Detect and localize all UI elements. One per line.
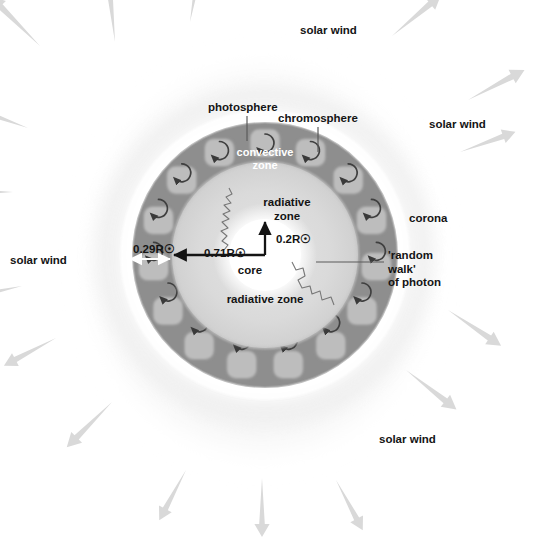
chromosphere-label: chromosphere [278,112,358,126]
radiative-zone-label-lower: radiative zone [227,293,304,307]
convection-cell [361,253,391,281]
core-radius-label: 0.2R☉ [276,233,311,247]
corona-label: corona [409,212,447,226]
solar-wind-arrow [61,397,117,453]
diagram-canvas [0,0,539,547]
convection-cell [296,139,326,167]
solar-wind-arrow [1,332,60,372]
solar-wind-label-right: solar wind [429,118,486,132]
convective-zone-line-2: zone [237,159,294,172]
radiative-zone-label-upper: radiative zone [263,196,310,223]
convective-zone-line-1: convective [237,146,294,159]
radiative-zone-line-2: zone [263,210,310,224]
convective-thickness-label: 0.29R☉ [133,243,175,257]
solar-wind-arrow [0,101,30,135]
solar-wind-label-left: solar wind [10,254,67,268]
solar-wind-arrow [444,304,506,352]
convection-cell [143,206,173,234]
radiative-zone-line-1: radiative [263,196,310,210]
radiative-radius-label: 0.71R☉ [204,247,246,261]
solar-wind-arrow [183,0,207,23]
convection-cell [273,351,303,379]
convection-cell [139,253,169,281]
solar-wind-arrow [101,0,123,43]
solar-wind-arrow [254,478,269,537]
solar-wind-arrow [0,279,23,304]
random-walk-line-3: of photon [388,276,441,290]
solar-wind-arrow [0,184,13,199]
solar-wind-arrow [0,0,46,52]
random-walk-label: 'random walk' of photon [388,249,441,290]
convection-cell [204,139,234,167]
convection-cell [357,206,387,234]
solar-wind-label-top: solar wind [300,24,357,38]
photosphere-label: photosphere [208,101,278,115]
convection-cell [333,166,363,194]
convection-cell [167,166,197,194]
convection-cell [316,332,346,360]
random-walk-line-1: 'random [388,249,441,263]
solar-structure-diagram: solar wind solar wind solar wind solar w… [0,0,539,547]
solar-wind-arrow [464,63,528,106]
solar-wind-label-bottom-right: solar wind [379,433,436,447]
solar-wind-arrow [330,477,369,534]
convective-zone-label: convective zone [237,146,294,172]
random-walk-line-2: walk' [388,263,441,277]
solar-wind-arrow [153,467,192,524]
convection-cell [184,332,214,360]
solar-wind-arrow [387,0,446,42]
core-label: core [238,264,262,278]
convection-cell [227,351,257,379]
